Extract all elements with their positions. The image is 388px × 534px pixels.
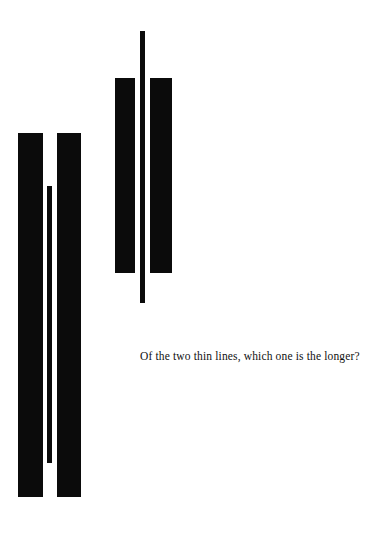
figure-caption: Of the two thin lines, which one is the … <box>140 349 365 364</box>
upper-right-thin-line <box>140 31 145 303</box>
lower-left-thick-bar-left <box>18 133 43 497</box>
upper-right-thick-bar-left <box>115 78 135 273</box>
figure-canvas: Of the two thin lines, which one is the … <box>0 0 388 534</box>
lower-left-thick-bar-right <box>57 133 81 497</box>
upper-right-thick-bar-right <box>150 78 172 273</box>
lower-left-thin-line <box>47 186 52 463</box>
